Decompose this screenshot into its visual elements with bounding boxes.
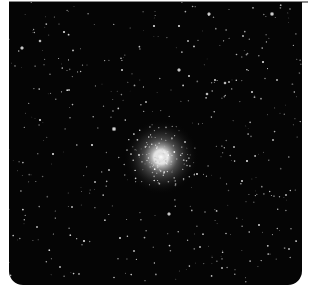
star-field-canvas	[9, 2, 302, 285]
star-field-photo	[9, 2, 302, 285]
